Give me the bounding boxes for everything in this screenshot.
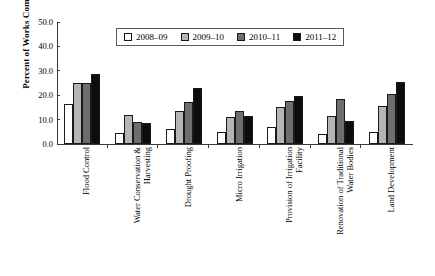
bar <box>175 111 184 144</box>
x-axis-category-label: Flood Control <box>82 147 92 195</box>
x-axis-label-line: Harvesting <box>143 147 153 223</box>
x-axis-category-label: Water Conservation &Harvesting <box>133 147 152 223</box>
x-axis-label-cell: Water Conservation &Harvesting <box>108 147 159 273</box>
chart-legend: 2008–092009–102010–112011–12 <box>116 28 344 46</box>
bar <box>318 134 327 144</box>
bar <box>115 133 124 144</box>
bar-chart: Percent of Works Completed 0.010.020.030… <box>0 0 435 276</box>
bar <box>345 121 354 144</box>
legend-label: 2011–12 <box>305 32 336 42</box>
bar <box>387 94 396 144</box>
x-axis-label-line: Water Bodies <box>345 147 355 235</box>
x-axis-category-label: Provision of IrrigationFacility <box>285 147 304 223</box>
y-axis-tick-label: 20.0 <box>38 90 57 100</box>
bar-group <box>57 22 108 144</box>
legend-swatch-icon <box>237 33 245 41</box>
legend-item: 2010–11 <box>237 32 280 42</box>
legend-label: 2008–09 <box>136 32 168 42</box>
legend-swatch-icon <box>181 33 189 41</box>
bar <box>124 115 133 144</box>
bar <box>378 106 387 144</box>
x-axis-label-cell: Provision of IrrigationFacility <box>260 147 311 273</box>
bar <box>396 82 405 144</box>
bar <box>217 132 226 144</box>
bar <box>267 127 276 144</box>
bar <box>184 102 193 144</box>
bar <box>226 117 235 144</box>
x-axis-label-line: Facility <box>295 147 305 223</box>
x-axis-label-line: Drought Proofing <box>184 147 194 207</box>
bar <box>336 99 345 144</box>
x-axis-label-cell: Flood Control <box>57 147 108 273</box>
x-axis-label-cell: Micro Irrigation <box>209 147 260 273</box>
bar <box>166 129 175 144</box>
y-axis-tick-label: 30.0 <box>38 66 57 76</box>
bar-group <box>361 22 412 144</box>
x-axis-category-labels: Flood ControlWater Conservation &Harvest… <box>57 147 412 273</box>
legend-item: 2009–10 <box>181 32 225 42</box>
x-axis-label-line: Micro Irrigation <box>235 147 245 202</box>
bar <box>142 123 151 144</box>
bar <box>276 107 285 144</box>
legend-item: 2011–12 <box>293 32 336 42</box>
x-axis-label-cell: Drought Proofing <box>158 147 209 273</box>
x-axis-label-line: Flood Control <box>82 147 92 195</box>
x-axis-label-cell: Renovation of TraditionalWater Bodies <box>311 147 362 273</box>
x-axis-label-line: Land Development <box>387 147 397 212</box>
bar <box>327 116 336 144</box>
y-axis-tick-label: 40.0 <box>38 41 57 51</box>
bar <box>133 122 142 144</box>
y-axis-tick-label: 10.0 <box>38 115 57 125</box>
bar <box>294 96 303 144</box>
bar <box>244 116 253 144</box>
bar <box>73 83 82 144</box>
x-axis-label-cell: Land Development <box>361 147 412 273</box>
legend-swatch-icon <box>124 33 132 41</box>
bar <box>82 83 91 144</box>
legend-swatch-icon <box>293 33 301 41</box>
bar <box>285 101 294 144</box>
legend-label: 2010–11 <box>249 32 280 42</box>
bar <box>235 111 244 144</box>
x-axis-category-label: Drought Proofing <box>184 147 194 207</box>
bar <box>91 74 100 144</box>
y-axis-tick-label: 0.0 <box>42 139 57 149</box>
y-axis-tick-label: 50.0 <box>38 17 57 27</box>
bar <box>193 88 202 144</box>
x-axis-category-label: Micro Irrigation <box>235 147 245 202</box>
x-axis-category-label: Renovation of TraditionalWater Bodies <box>336 147 355 235</box>
legend-item: 2008–09 <box>124 32 168 42</box>
legend-label: 2009–10 <box>193 32 225 42</box>
bar <box>64 104 73 144</box>
y-axis-title: Percent of Works Completed <box>21 0 31 102</box>
bar <box>369 132 378 144</box>
x-axis-category-label: Land Development <box>387 147 397 212</box>
